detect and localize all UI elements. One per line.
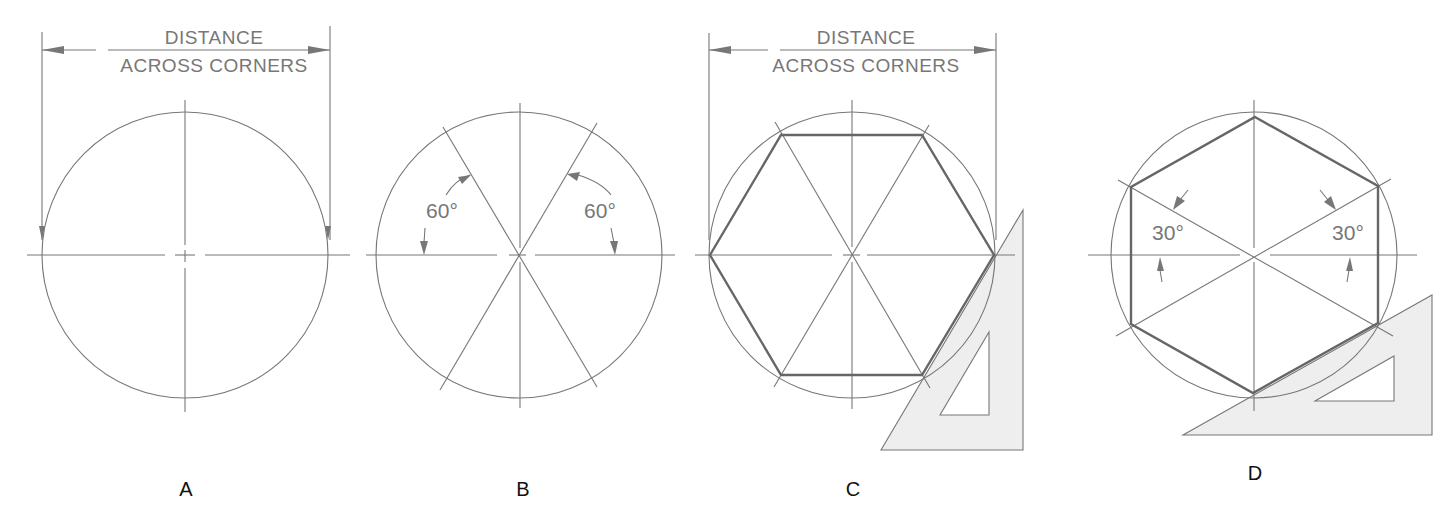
hexagon-construction-figure: DISTANCE ACROSS CORNERS A 60° 60° B: [0, 0, 1454, 516]
panel-b: 60° 60° B: [366, 103, 675, 500]
panel-c: DISTANCE ACROSS CORNERS C: [695, 27, 1023, 500]
angle-label-right: 30°: [1332, 221, 1364, 244]
dimension-text-line2: ACROSS CORNERS: [772, 55, 960, 76]
panel-label-d: D: [1248, 462, 1262, 484]
angle-label-left: 60°: [426, 199, 458, 222]
panel-label-c: C: [846, 478, 860, 500]
panel-d: 30° 30° D: [1088, 100, 1432, 484]
triangle-30-60-d: [1183, 295, 1432, 435]
panel-label-b: B: [516, 478, 529, 500]
dimension-text-line1: DISTANCE: [165, 27, 264, 48]
dimension-text-line2: ACROSS CORNERS: [120, 55, 308, 76]
panel-label-a: A: [179, 478, 193, 500]
angle-label-right: 60°: [584, 199, 616, 222]
angle-label-left: 30°: [1152, 221, 1184, 244]
dimension-text-line1: DISTANCE: [817, 27, 916, 48]
panel-a: DISTANCE ACROSS CORNERS A: [27, 26, 350, 500]
